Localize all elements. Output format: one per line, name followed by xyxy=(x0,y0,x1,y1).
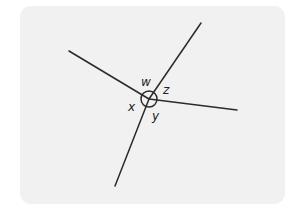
angle-label-y: y xyxy=(151,109,160,123)
diagram-canvas: w z x y xyxy=(0,0,298,213)
angle-label-z: z xyxy=(162,83,170,97)
angle-label-x: x xyxy=(127,100,136,114)
ray-upper-right xyxy=(149,23,201,99)
angles-diagram: w z x y xyxy=(0,0,298,213)
ray-right xyxy=(149,99,237,110)
ray-upper-left xyxy=(69,51,149,99)
angle-label-w: w xyxy=(141,75,151,89)
